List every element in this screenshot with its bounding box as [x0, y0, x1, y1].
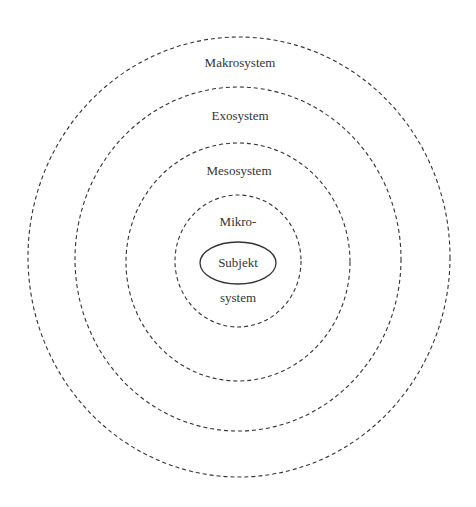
subject-label: Subjekt	[218, 256, 258, 269]
mikrosystem-label-top: Mikro-	[220, 215, 257, 228]
exosystem-label: Exosystem	[211, 109, 268, 122]
ecological-systems-diagram	[0, 0, 476, 507]
mikrosystem-label-bottom: system	[220, 291, 256, 304]
makrosystem-label: Makrosystem	[205, 56, 276, 69]
mesosystem-label: Mesosystem	[207, 164, 272, 177]
